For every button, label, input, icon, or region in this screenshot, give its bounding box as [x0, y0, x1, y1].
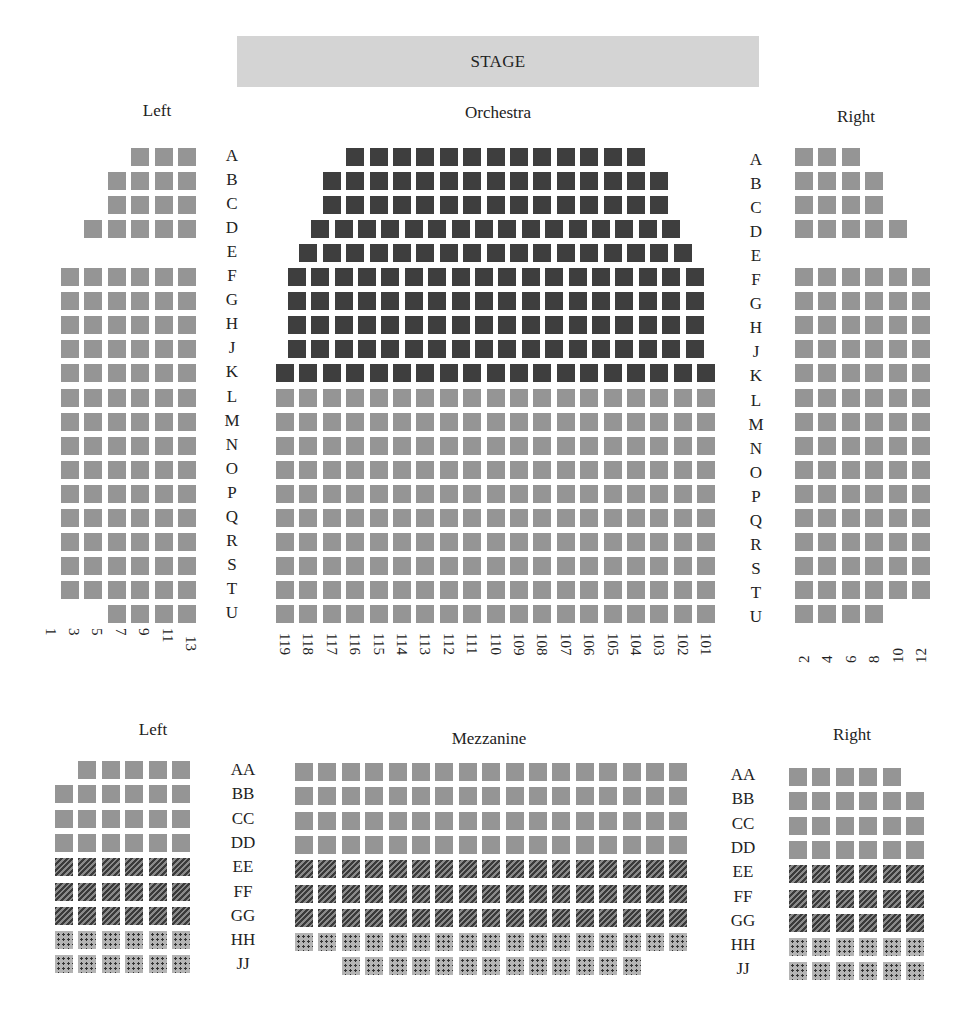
row-label-CC: CC [723, 814, 763, 834]
row-label-GG: GG [223, 906, 263, 926]
row-label-CC: CC [223, 809, 263, 829]
row-label-BB: BB [723, 789, 763, 809]
mezzanine-row-labels: AAAABBBBCCCCDDDDEEEEFFFFGGGGHHHHJJJJ [0, 0, 962, 1011]
row-label-DD: DD [723, 838, 763, 858]
row-label-EE: EE [223, 857, 263, 877]
row-label-FF: FF [723, 887, 763, 907]
row-label-HH: HH [723, 935, 763, 955]
row-label-FF: FF [223, 882, 263, 902]
row-label-GG: GG [723, 911, 763, 931]
row-label-DD: DD [223, 833, 263, 853]
row-label-AA: AA [223, 760, 263, 780]
row-label-EE: EE [723, 862, 763, 882]
row-label-AA: AA [723, 765, 763, 785]
row-label-JJ: JJ [723, 959, 763, 979]
row-label-JJ: JJ [223, 954, 263, 974]
row-label-BB: BB [223, 784, 263, 804]
row-label-HH: HH [223, 930, 263, 950]
